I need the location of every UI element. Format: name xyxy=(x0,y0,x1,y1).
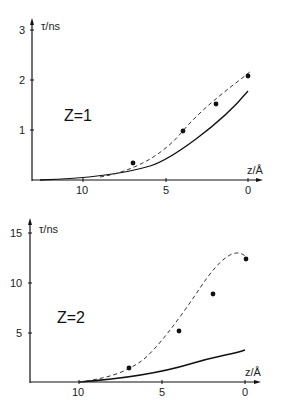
y-axis-arrow-icon xyxy=(28,218,32,225)
data-point xyxy=(244,257,249,262)
data-point xyxy=(127,366,132,371)
y-tick: 2 xyxy=(19,74,25,86)
y-tick: 3 xyxy=(19,24,25,36)
chart-bottom: 15 10 5 10 5 0 τ/ns z/Å Z=2 xyxy=(10,218,262,398)
y-axis-label: τ/ns xyxy=(41,20,61,32)
y-tick: 1 xyxy=(19,124,25,136)
data-point xyxy=(246,74,251,79)
y-tick: 15 xyxy=(10,227,22,239)
x-axis-label: z/Å xyxy=(245,366,262,378)
data-point xyxy=(214,102,219,107)
dashed-curve xyxy=(100,71,251,177)
data-point xyxy=(211,292,216,297)
x-axis-label: z/Å xyxy=(247,164,264,176)
x-tick: 0 xyxy=(242,386,248,398)
data-point xyxy=(131,161,136,166)
solid-curve xyxy=(79,350,245,382)
x-tick: 5 xyxy=(163,184,169,196)
y-tick: 5 xyxy=(16,327,22,339)
y-tick: 10 xyxy=(10,277,22,289)
x-tick: 0 xyxy=(245,184,251,196)
panel-label: Z=2 xyxy=(57,309,85,326)
dashed-curve xyxy=(79,253,247,382)
y-axis-arrow-icon xyxy=(30,18,34,25)
data-point xyxy=(177,329,182,334)
x-tick: 10 xyxy=(76,184,88,196)
y-axis-label: τ/ns xyxy=(39,223,59,235)
data-point xyxy=(181,129,186,134)
x-tick: 10 xyxy=(72,386,84,398)
figure: 3 2 1 10 5 0 τ/ns z/Å Z=1 15 10 5 10 xyxy=(0,0,283,409)
x-axis-arrow-icon xyxy=(256,178,263,182)
chart-top: 3 2 1 10 5 0 τ/ns z/Å Z=1 xyxy=(19,18,264,196)
x-axis-arrow-icon xyxy=(254,380,261,384)
panel-label: Z=1 xyxy=(64,107,92,124)
x-tick: 5 xyxy=(159,386,165,398)
